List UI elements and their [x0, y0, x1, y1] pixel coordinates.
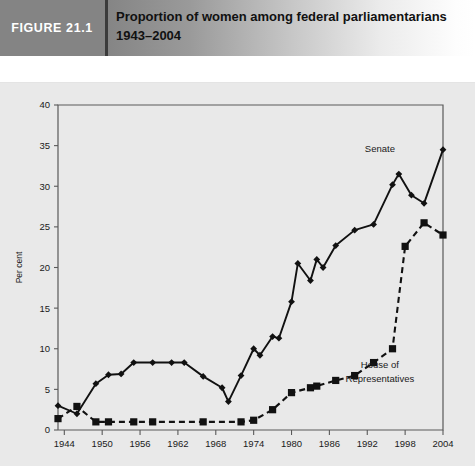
senate-data-point [238, 372, 245, 379]
house-series-line [58, 223, 443, 422]
x-tick-label: 1998 [395, 438, 416, 449]
senate-data-point [440, 146, 447, 153]
house-series-label: House of [361, 359, 399, 370]
house-data-point [402, 243, 409, 250]
y-tick-label: 30 [39, 181, 50, 192]
house-data-point [92, 418, 99, 425]
x-tick-label: 2004 [432, 438, 453, 449]
house-data-point [269, 406, 276, 413]
house-data-point [439, 231, 446, 238]
y-tick-label: 10 [39, 343, 50, 354]
senate-data-point [370, 221, 377, 228]
house-data-point [149, 418, 156, 425]
x-tick-label: 1986 [319, 438, 340, 449]
header-divider [105, 0, 108, 56]
senate-data-point [149, 359, 156, 366]
house-data-point [332, 377, 339, 384]
senate-data-point [55, 402, 62, 409]
x-tick-label: 1974 [243, 438, 264, 449]
house-data-point [420, 219, 427, 226]
y-tick-label: 15 [39, 303, 50, 314]
house-data-point [54, 415, 61, 422]
y-axis-title: Per cent [14, 251, 24, 283]
figure-number-block: FIGURE 21.1 [0, 0, 104, 56]
senate-data-point [168, 359, 175, 366]
senate-data-point [288, 298, 295, 305]
figure-title: Proportion of women among federal parlia… [116, 7, 466, 45]
y-tick-label: 25 [39, 221, 50, 232]
y-tick-label: 35 [39, 140, 50, 151]
house-data-point [200, 418, 207, 425]
figure-title-line-1: Proportion of women among federal parlia… [116, 7, 466, 26]
x-tick-label: 1968 [205, 438, 226, 449]
x-tick-label: 1956 [129, 438, 150, 449]
house-data-point [250, 417, 257, 424]
senate-series-label: Senate [365, 143, 395, 154]
house-series-label: Representatives [346, 373, 415, 384]
house-data-point [237, 418, 244, 425]
x-tick-label: 1962 [167, 438, 188, 449]
figure-number-label: FIGURE 21.1 [11, 21, 93, 35]
figure-container: FIGURE 21.1 Proportion of women among fe… [0, 0, 475, 466]
house-data-point [313, 383, 320, 390]
y-tick-label: 0 [45, 424, 50, 435]
house-data-point [73, 403, 80, 410]
house-data-point [130, 418, 137, 425]
senate-data-point [225, 398, 232, 405]
header-separator-strip [0, 56, 475, 83]
figure-header: FIGURE 21.1 Proportion of women among fe… [0, 0, 475, 56]
y-tick-label: 40 [39, 99, 50, 110]
house-data-point [389, 345, 396, 352]
house-data-point [105, 418, 112, 425]
x-tick-label: 1950 [92, 438, 113, 449]
house-data-point [288, 389, 295, 396]
senate-data-point [276, 335, 283, 342]
x-tick-label: 1944 [54, 438, 75, 449]
x-tick-label: 1992 [357, 438, 378, 449]
y-tick-label: 5 [45, 384, 50, 395]
chart-panel: 0510152025303540Per cent1944195019561962… [0, 83, 475, 466]
house-data-point [307, 384, 314, 391]
x-tick-label: 1980 [281, 438, 302, 449]
line-chart: 0510152025303540Per cent1944195019561962… [0, 83, 475, 466]
figure-title-line-2: 1943–2004 [116, 26, 466, 45]
y-tick-label: 20 [39, 262, 50, 273]
